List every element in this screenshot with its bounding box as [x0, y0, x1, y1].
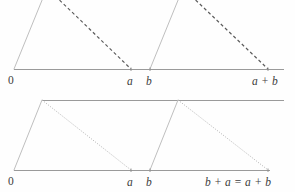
triangle-two-left-leg: [150, 0, 183, 69]
bottom-panel-group: [14, 100, 284, 172]
shape-one-left-side: [14, 100, 42, 170]
geometry-canvas: [0, 0, 295, 192]
shape-two-diagonal: [178, 100, 268, 170]
top-panel-group: [14, 0, 284, 71]
triangle-one-left-leg: [14, 0, 47, 69]
triangle-one-hypotenuse: [47, 0, 131, 69]
shape-two-left-side: [150, 100, 178, 170]
figure-root: 0 a b a + b 0 a b b + a = a + b: [0, 0, 295, 192]
triangle-two-hypotenuse: [183, 0, 268, 69]
shape-one-diagonal: [42, 100, 131, 170]
